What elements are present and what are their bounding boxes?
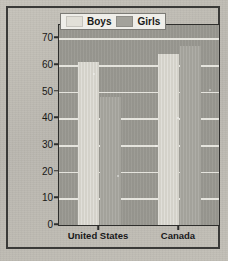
x-axis-tick-label: Canada (161, 230, 195, 241)
y-axis-tick-mark (54, 37, 58, 39)
y-axis-tick-mark (54, 117, 58, 119)
x-axis-tick-label: United States (68, 230, 129, 241)
girls-swatch-icon (116, 16, 133, 27)
legend-label-boys: Boys (87, 16, 111, 27)
chart-figure: Percentage of High School Students 01020… (6, 6, 220, 249)
bar-boys-united-states (78, 62, 99, 225)
y-axis-tick-mark (54, 143, 58, 145)
x-axis-tick-mark (177, 226, 179, 230)
bar-boys-canada (158, 54, 179, 225)
y-axis-tick-mark (54, 170, 58, 172)
boys-swatch-icon (66, 16, 83, 27)
legend-item-boys: Boys (66, 16, 111, 27)
y-axis-tick-mark (54, 90, 58, 92)
chart-legend: Boys Girls (60, 13, 166, 30)
y-axis-tick-mark (54, 197, 58, 199)
plot-area (58, 24, 220, 226)
legend-label-girls: Girls (137, 16, 160, 27)
plot-area-wrapper: 010203040506070United StatesCanada (58, 24, 220, 226)
legend-item-girls: Girls (116, 16, 160, 27)
x-axis-tick-mark (97, 226, 99, 230)
gridline (59, 38, 219, 40)
y-axis-tick-mark (54, 223, 58, 225)
bar-girls-canada (180, 46, 201, 225)
y-axis-tick-mark (54, 63, 58, 65)
bar-girls-united-states (100, 97, 121, 225)
